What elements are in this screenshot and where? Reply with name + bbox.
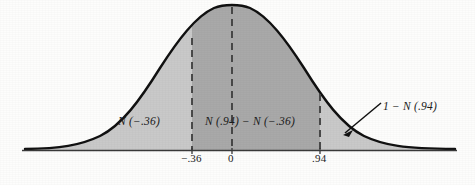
tick-label-zero: 0 <box>228 152 234 164</box>
region-label-middle: N (.94) − N (−.36) <box>205 115 295 127</box>
region-label-left-tail: N (−.36) <box>118 115 160 127</box>
tick-label-094: .94 <box>312 152 326 164</box>
middle-area <box>25 5 455 150</box>
distribution-plot <box>0 0 475 185</box>
tick-label-neg036: −.36 <box>181 152 202 164</box>
callout-leader-line <box>345 103 381 133</box>
normal-distribution-figure: N (−.36) N (.94) − N (−.36) 1 − N (.94) … <box>0 0 475 185</box>
curve-shaded-areas <box>25 5 455 150</box>
region-label-right-tail: 1 − N (.94) <box>383 100 437 112</box>
